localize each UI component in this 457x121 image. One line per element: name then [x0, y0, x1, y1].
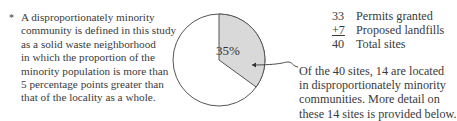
- tally-row: +7 Proposed landfills: [332, 23, 444, 37]
- tally-row: 33 Permits granted: [332, 9, 444, 23]
- note-line: communities. More detail on: [299, 92, 457, 106]
- callout-note: Of the 40 sites, 14 are located in dispr…: [299, 64, 457, 121]
- tally-number: 33: [332, 9, 356, 23]
- tally-number: 40: [332, 37, 356, 51]
- tally-label: Permits granted: [356, 9, 433, 23]
- tally-label: Total sites: [356, 37, 406, 51]
- tally-row: 40 Total sites: [332, 37, 444, 51]
- tally-label: Proposed landfills: [356, 23, 444, 37]
- note-line: Of the 40 sites, 14 are located: [299, 64, 457, 78]
- slice-percent-label: 35%: [216, 43, 240, 58]
- site-tally: 33 Permits granted +7 Proposed landfills…: [332, 9, 444, 51]
- note-line: in disproportionately minority: [299, 78, 457, 92]
- tally-number: +7: [332, 23, 356, 37]
- note-line: these 14 sites is provided below.: [299, 107, 457, 121]
